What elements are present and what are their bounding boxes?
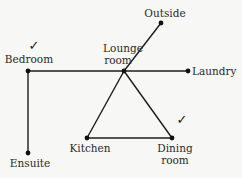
node-laundry xyxy=(186,69,191,74)
diagram-svg: Bedroom Lounge room Laundry Outside Ensu… xyxy=(0,0,242,178)
label-lounge-line2: room xyxy=(104,54,132,66)
node-ensuite xyxy=(26,151,31,156)
node-bedroom xyxy=(26,69,31,74)
edge-lounge-dining xyxy=(124,71,172,138)
node-dining xyxy=(170,136,175,141)
label-kitchen: Kitchen xyxy=(69,142,110,154)
node-outside xyxy=(159,21,164,26)
node-kitchen xyxy=(85,136,90,141)
label-outside: Outside xyxy=(144,7,185,19)
check-icon-dining: ✓ xyxy=(177,112,188,127)
edge-lounge-kitchen xyxy=(87,71,124,138)
label-dining-line2: room xyxy=(161,154,189,166)
node-lounge xyxy=(122,69,127,74)
label-laundry: Laundry xyxy=(192,65,236,77)
room-network-diagram: Bedroom Lounge room Laundry Outside Ensu… xyxy=(0,0,242,178)
label-bedroom: Bedroom xyxy=(5,53,53,65)
label-dining-line1: Dining xyxy=(157,142,193,154)
label-ensuite: Ensuite xyxy=(10,157,50,169)
label-lounge-line1: Lounge xyxy=(103,42,143,54)
check-icon-bedroom: ✓ xyxy=(29,38,40,53)
